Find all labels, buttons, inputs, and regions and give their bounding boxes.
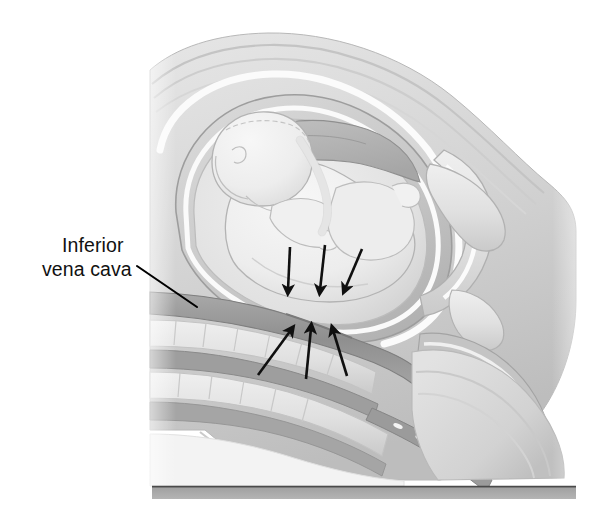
support-surface-group [152, 486, 576, 499]
medical-illustration-canvas: Inferior vena cava [0, 0, 608, 528]
support-surface [152, 486, 576, 499]
right-edge-fade [552, 0, 608, 528]
illustration-figure: Inferior vena cava [0, 0, 608, 528]
left-edge-fade [130, 0, 176, 528]
fetal-head [212, 112, 313, 206]
ivc-label-line-1: Inferior [62, 234, 124, 256]
ivc-label-line-2: vena cava [42, 258, 132, 280]
